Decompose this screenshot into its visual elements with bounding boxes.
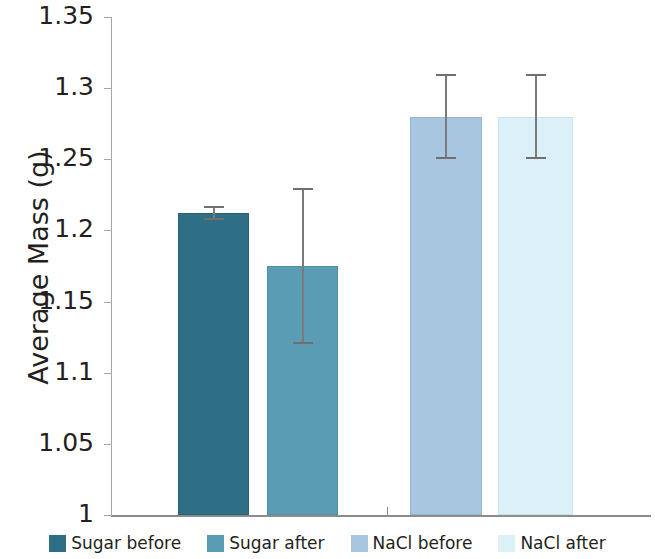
legend-item-nacl-before[interactable]: NaCl before [351, 534, 473, 553]
bar-nacl-after [498, 117, 573, 515]
y-axis-tick-label: 1 [78, 498, 94, 530]
y-axis-tick-label: 1.25 [38, 142, 94, 174]
y-axis-line [111, 17, 112, 516]
error-bar-cap-bottom [436, 157, 456, 159]
y-axis-tick-label: 1.05 [38, 427, 94, 459]
y-axis-tick-label: 1.3 [54, 71, 94, 103]
bar-chart: Average Mass (g) 1.351.31.251.21.151.11.… [0, 0, 655, 559]
y-axis-tick: 1.35 [104, 17, 112, 18]
legend-label: Sugar after [229, 534, 324, 553]
error-bar-stem [302, 188, 304, 345]
y-axis-tick: 1 [104, 515, 112, 516]
bar-nacl-before [410, 117, 482, 515]
error-bar-sugar-after [288, 188, 318, 345]
error-bar-nacl-before [431, 74, 461, 159]
legend-label: NaCl after [520, 534, 605, 553]
legend-swatch-icon [207, 535, 224, 552]
error-bar-cap-top [204, 206, 224, 208]
error-bar-cap-top [526, 74, 546, 76]
legend-label: NaCl before [373, 534, 473, 553]
y-axis-tick: 1.15 [104, 302, 112, 303]
legend-item-nacl-after[interactable]: NaCl after [498, 534, 605, 553]
x-axis-group-separator-tick [387, 507, 388, 516]
legend-swatch-icon [498, 535, 515, 552]
legend-item-sugar-after[interactable]: Sugar after [207, 534, 324, 553]
legend-swatch-icon [351, 535, 368, 552]
y-axis-tick-label: 1.2 [54, 213, 94, 245]
error-bar-cap-bottom [204, 218, 224, 220]
y-axis-tick: 1.1 [104, 373, 112, 374]
error-bar-cap-top [436, 74, 456, 76]
error-bar-cap-bottom [293, 342, 313, 344]
bar-sugar-before [178, 213, 249, 515]
y-axis-title: Average Mass (g) [23, 78, 54, 458]
error-bar-sugar-before [199, 206, 229, 220]
error-bar-nacl-after [521, 74, 551, 159]
y-axis-tick: 1.05 [104, 444, 112, 445]
x-axis-line [111, 515, 651, 517]
plot-area: 1.351.31.251.21.151.11.051 [111, 17, 651, 515]
legend-item-sugar-before[interactable]: Sugar before [49, 534, 181, 553]
y-axis-tick: 1.3 [104, 88, 112, 89]
y-axis-tick-label: 1.1 [54, 356, 94, 388]
y-axis-tick: 1.25 [104, 159, 112, 160]
y-axis-tick: 1.2 [104, 230, 112, 231]
error-bar-stem [445, 74, 447, 159]
legend-swatch-icon [49, 535, 66, 552]
error-bar-cap-bottom [526, 157, 546, 159]
error-bar-cap-top [293, 188, 313, 190]
y-axis-tick-label: 1.35 [38, 0, 94, 32]
error-bar-stem [535, 74, 537, 159]
legend-label: Sugar before [71, 534, 181, 553]
y-axis-tick-label: 1.15 [38, 285, 94, 317]
chart-legend: Sugar beforeSugar afterNaCl beforeNaCl a… [0, 528, 655, 559]
